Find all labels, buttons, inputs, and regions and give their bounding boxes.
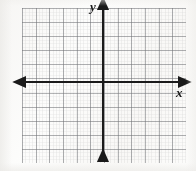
y-axis-label: y [90,0,96,13]
axes-layer [0,0,196,171]
x-axis-label: x [176,86,183,99]
coordinate-plane-figure: y x [0,0,196,171]
